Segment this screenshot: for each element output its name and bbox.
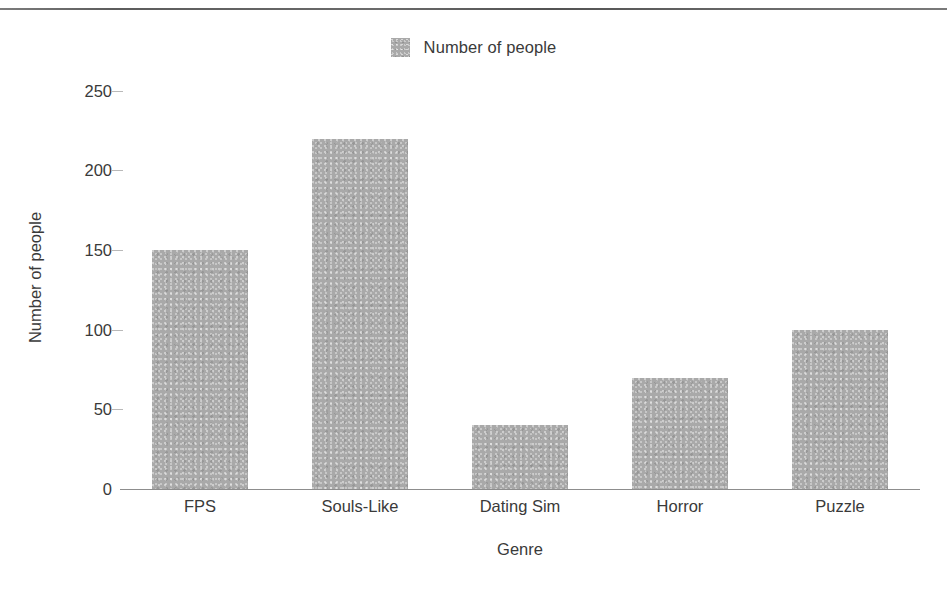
x-tick-puzzle: Puzzle — [760, 497, 920, 516]
bar-slot-souls-like — [280, 91, 440, 489]
chart-legend: Number of people — [0, 38, 947, 57]
x-tick-souls-like: Souls-Like — [280, 497, 440, 516]
y-axis-tick-labels: 250 200 150 100 50 0 — [0, 0, 112, 600]
bar-series-number-of-people — [120, 91, 920, 489]
bar-puzzle[interactable] — [792, 330, 888, 489]
y-tick-100: 100 — [0, 321, 112, 340]
bar-slot-horror — [600, 91, 760, 489]
bar-slot-puzzle — [760, 91, 920, 489]
y-tick-0: 0 — [0, 480, 112, 499]
bar-souls-like[interactable] — [312, 139, 408, 489]
x-axis-title: Genre — [120, 540, 920, 559]
x-tick-fps: FPS — [120, 497, 280, 516]
x-tick-horror: Horror — [600, 497, 760, 516]
plot-area — [120, 91, 920, 489]
bar-horror[interactable] — [632, 378, 728, 489]
bar-chart: Number of people 250 200 150 100 50 0 — [0, 0, 947, 600]
legend-item-number-of-people[interactable]: Number of people — [391, 38, 557, 57]
x-axis-tick-labels: FPS Souls-Like Dating Sim Horror Puzzle — [120, 497, 920, 516]
bar-slot-fps — [120, 91, 280, 489]
y-tick-250: 250 — [0, 82, 112, 101]
y-axis-title: Number of people — [26, 148, 45, 408]
y-tick-200: 200 — [0, 161, 112, 180]
x-axis-line — [120, 489, 920, 490]
bar-fps[interactable] — [152, 250, 248, 489]
bar-dating-sim[interactable] — [472, 425, 568, 489]
legend-label: Number of people — [424, 38, 557, 57]
bar-slot-dating-sim — [440, 91, 600, 489]
y-tick-50: 50 — [0, 400, 112, 419]
x-tick-dating-sim: Dating Sim — [440, 497, 600, 516]
y-tick-150: 150 — [0, 241, 112, 260]
legend-swatch-icon — [391, 38, 410, 57]
